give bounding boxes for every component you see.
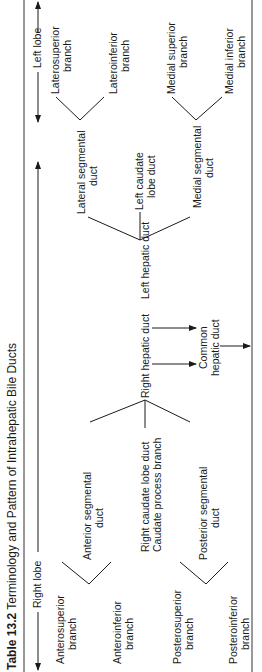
anterosuperior-branch: Anterosuperior branch [55, 595, 78, 664]
anterior-segmental-duct: Anterior segmental duct [82, 472, 105, 560]
common-hepatic-duct: Common hepatic duct [198, 319, 221, 376]
posterosuperior-branch: Posterosuperior branch [172, 590, 195, 664]
rotated-table-page: Table 13.2 Terminology and Pattern of In… [0, 0, 262, 672]
left-caudate-lobe-duct: Left caudate lobe duct [134, 152, 157, 210]
posterior-segmental-duct: Posterior segmental duct [198, 467, 221, 560]
medial-segmental-duct: Medial segmental duct [192, 126, 215, 208]
lateral-segmental-duct: Lateral segmental duct [76, 131, 99, 214]
left-hepatic-duct: Left hepatic duct [140, 222, 152, 299]
left-lobe-label: Left lobe [32, 28, 44, 68]
lateroinferior-branch: Lateroinferior branch [108, 32, 131, 94]
right-lobe-label: Right lobe [32, 561, 44, 608]
posteroinferior-branch: Posteroinferior branch [228, 596, 251, 664]
caudate-process-branch: Caudate process branch [152, 438, 164, 552]
right-hepatic-duct: Right hepatic duct [140, 314, 152, 398]
anteroinferior-branch: Anteroinferior branch [112, 601, 135, 664]
right-caudate-lobe-duct: Right caudate lobe duct [140, 442, 152, 552]
medial-superior-branch: Medial superior branch [166, 22, 189, 94]
medial-inferior-branch: Medial inferior branch [224, 28, 247, 94]
laterosuperior-branch: Laterosuperior branch [50, 26, 73, 94]
